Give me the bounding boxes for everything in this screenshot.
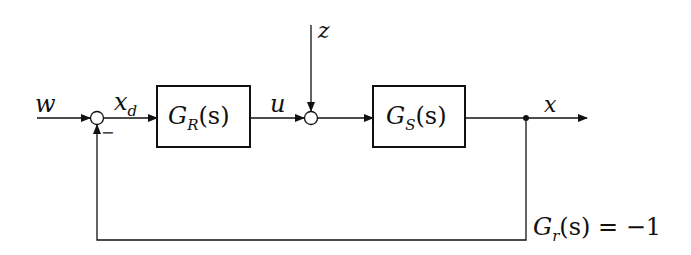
- branch-point: [523, 115, 529, 121]
- plant-block: GS(s): [386, 104, 447, 133]
- feedback-path: [97, 118, 526, 240]
- input-w-label: w: [35, 92, 56, 116]
- summing-junction-2: [305, 112, 318, 125]
- error-xd-label: xd: [114, 90, 137, 119]
- controller-block: GR(s): [168, 104, 230, 133]
- disturbance-z-label: z: [318, 20, 330, 42]
- control-u-label: u: [270, 92, 285, 116]
- output-x-label: x: [544, 94, 556, 116]
- block-diagram: w xd − GR(s) u z GS(s) x Gr(s) = −1: [0, 0, 691, 255]
- feedback-gain-label: Gr(s) = −1: [533, 215, 661, 244]
- feedback-minus-sign: −: [101, 125, 114, 141]
